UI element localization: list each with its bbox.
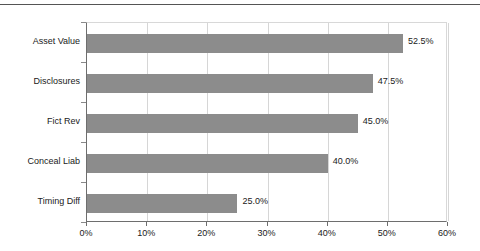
value-axis-tick: [447, 222, 448, 226]
value-axis-tick: [387, 222, 388, 226]
bar-value-label: 45.0%: [363, 116, 389, 127]
value-axis-tick: [86, 222, 87, 226]
value-axis-tick: [206, 222, 207, 226]
horizontal-bar-chart: Asset Value Disclosures Fict Rev Conceal…: [0, 0, 480, 251]
bar: [87, 34, 403, 53]
value-axis-tick: [267, 222, 268, 226]
value-axis-label: 50%: [378, 228, 396, 239]
category-label-disclosures: Disclosures: [4, 76, 80, 87]
bar-value-label: 52.5%: [408, 36, 434, 47]
value-axis-label: 20%: [197, 228, 215, 239]
plot-area: [86, 22, 447, 222]
category-label-conceal-liab: Conceal Liab: [4, 156, 80, 167]
bar: [87, 154, 328, 173]
bar-value-label: 40.0%: [333, 156, 359, 167]
value-axis-tick: [327, 222, 328, 226]
bar-value-label: 25.0%: [242, 196, 268, 207]
bar: [87, 74, 373, 93]
value-axis-tick: [146, 222, 147, 226]
category-label-fict-rev: Fict Rev: [4, 116, 80, 127]
gridline-60%: [448, 23, 449, 221]
bar-value-label: 47.5%: [378, 76, 404, 87]
value-axis-label: 10%: [137, 228, 155, 239]
category-label-timing-diff: Timing Diff: [4, 196, 80, 207]
bar: [87, 194, 237, 213]
bar: [87, 114, 358, 133]
value-axis-label: 40%: [318, 228, 336, 239]
category-axis-labels: Asset Value Disclosures Fict Rev Conceal…: [0, 0, 80, 251]
value-axis-label: 30%: [257, 228, 275, 239]
value-axis-label: 60%: [438, 228, 456, 239]
category-label-asset-value: Asset Value: [4, 36, 80, 47]
value-axis-label: 0%: [79, 228, 92, 239]
